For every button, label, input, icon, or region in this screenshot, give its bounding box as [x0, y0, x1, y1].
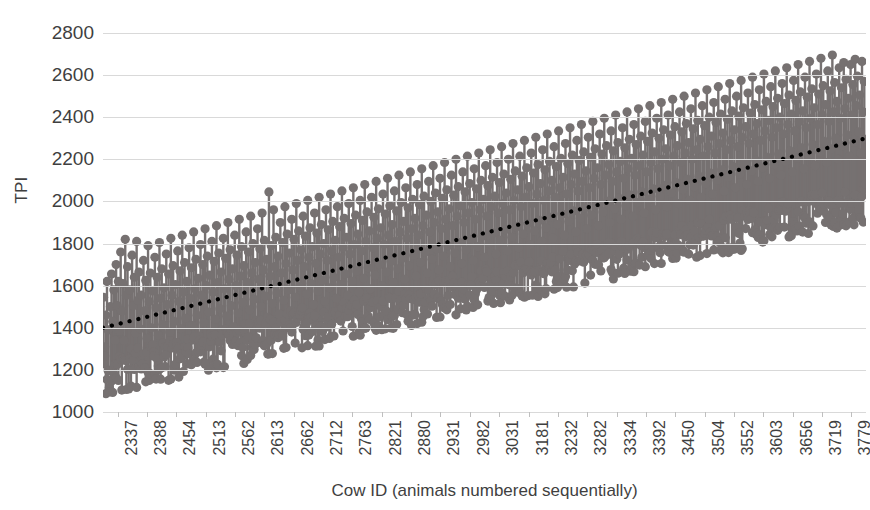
- plot-canvas: [103, 33, 866, 412]
- gridline: [103, 328, 866, 329]
- y-tick-label: 1800: [24, 234, 94, 253]
- x-tick-label: 3031: [505, 420, 521, 456]
- y-tick-label: 1200: [24, 360, 94, 379]
- x-tick-label: 2931: [446, 420, 462, 456]
- y-axis-tick-labels: 2800260024002200200018001600140012001000: [24, 0, 94, 510]
- x-tick-label: 3603: [769, 420, 785, 456]
- y-tick-label: 1400: [24, 318, 94, 337]
- x-tick-label: 3282: [593, 420, 609, 456]
- x-axis-title: Cow ID (animals numbered sequentially): [103, 481, 866, 501]
- x-tick-label: 2388: [153, 420, 169, 456]
- x-tick-label: 2662: [300, 420, 316, 456]
- gridline: [103, 159, 866, 160]
- x-tick-label: 3392: [652, 420, 668, 456]
- x-tick-label: 3334: [623, 420, 639, 456]
- x-tick-label: 2712: [329, 420, 345, 456]
- x-tick-label: 2613: [270, 420, 286, 456]
- y-tick-label: 2000: [24, 191, 94, 210]
- x-tick-label: 3181: [535, 420, 551, 456]
- tpi-stem-chart: TPI 280026002400220020001800160014001200…: [0, 0, 870, 510]
- x-tick-label: 2562: [241, 420, 257, 456]
- x-tick-label: 2513: [212, 420, 228, 456]
- x-tick-label: 3504: [711, 420, 727, 456]
- x-tick-label: 2337: [124, 420, 140, 456]
- x-tick-label: 3450: [681, 420, 697, 456]
- x-tick-label: 2821: [388, 420, 404, 456]
- gridline: [103, 201, 866, 202]
- gridline: [103, 286, 866, 287]
- x-tick-label: 3232: [564, 420, 580, 456]
- gridline: [103, 244, 866, 245]
- gridline: [103, 75, 866, 76]
- x-tick-label: 2982: [476, 420, 492, 456]
- x-tick-label: 2454: [182, 420, 198, 456]
- y-tick-label: 1000: [24, 402, 94, 421]
- x-tick-label: 3719: [828, 420, 844, 456]
- x-tick-label: 3779: [857, 420, 870, 456]
- y-tick-label: 2400: [24, 107, 94, 126]
- x-tick-label: 2763: [358, 420, 374, 456]
- y-tick-label: 1600: [24, 276, 94, 295]
- x-axis-tick-labels: 2337238824542513256226132662271227632821…: [103, 412, 866, 474]
- gridline: [103, 33, 866, 34]
- x-tick-label: 3552: [740, 420, 756, 456]
- plot-area: [103, 33, 866, 412]
- x-tick-label: 3656: [799, 420, 815, 456]
- y-tick-label: 2800: [24, 23, 94, 42]
- x-tick-label: 2880: [417, 420, 433, 456]
- y-tick-label: 2600: [24, 65, 94, 84]
- chart-title-cropped: [250, 0, 630, 3]
- gridline: [103, 117, 866, 118]
- gridline: [103, 370, 866, 371]
- y-tick-label: 2200: [24, 149, 94, 168]
